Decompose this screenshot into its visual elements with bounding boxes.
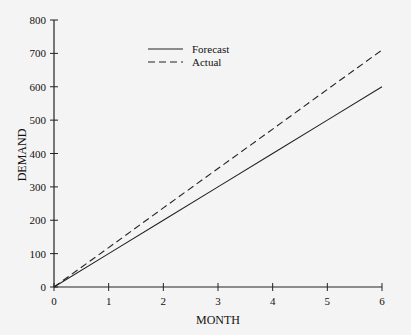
plot-lines [54,50,382,287]
series-line-actual [54,50,382,287]
x-tick-label: 1 [106,295,112,307]
y-tick-label: 200 [30,214,47,226]
y-tick-label: 0 [41,281,47,293]
y-tick-label: 800 [30,14,47,26]
x-tick-label: 0 [51,295,57,307]
legend-label-actual: Actual [192,56,221,68]
x-tick-label: 6 [379,295,385,307]
y-tick-label: 600 [30,81,47,93]
y-tick-label: 700 [30,47,47,59]
y-tick-label: 500 [30,114,47,126]
x-tick-label: 5 [325,295,331,307]
y-tick-label: 300 [30,181,47,193]
y-tick-label: 400 [30,148,47,160]
x-tick-label: 3 [215,295,221,307]
series-line-forecast [54,87,382,287]
x-tick-label: 4 [270,295,276,307]
y-tick-label: 100 [30,248,47,260]
legend-label-forecast: Forecast [192,43,229,55]
y-axis-label: DEMAND [15,128,29,181]
legend: ForecastActual [148,43,229,68]
line-chart: 01234560100200300400500600700800 Forecas… [0,0,411,335]
x-axis-label: MONTH [196,313,240,327]
x-tick-label: 2 [161,295,167,307]
